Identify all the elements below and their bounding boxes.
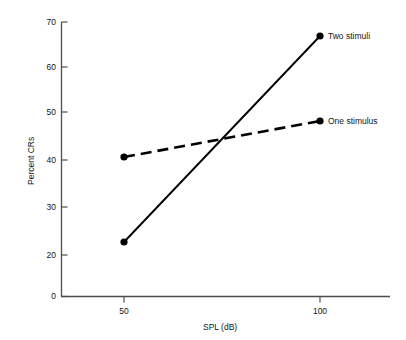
- chart-figure: 70 60 50 40 30 20 0 50 100 Percent CRs S…: [0, 0, 406, 340]
- series-label-one-stimulus: One stimulus: [328, 117, 378, 126]
- data-point-two-stimuli-50: [120, 238, 127, 245]
- x-axis-ticks: [124, 297, 320, 303]
- x-tick-label-50: 50: [109, 307, 139, 316]
- data-point-two-stimuli-100: [316, 32, 323, 39]
- data-point-one-stimulus-50: [120, 153, 127, 160]
- y-tick-label-50: 50: [32, 108, 56, 117]
- plot-area: [0, 0, 406, 340]
- y-tick-label-60: 60: [32, 63, 56, 72]
- axis-lines: [61, 22, 390, 297]
- series-label-two-stimuli: Two stimuli: [328, 32, 370, 41]
- x-axis-title: SPL (dB): [203, 323, 237, 332]
- y-axis-ticks: [62, 22, 68, 297]
- y-tick-label-0: 0: [32, 292, 56, 301]
- y-tick-label-70: 70: [32, 18, 56, 27]
- y-axis-title: Percent CRs: [27, 137, 36, 185]
- series-two-stimuli: [120, 32, 323, 245]
- x-tick-label-100: 100: [305, 307, 335, 316]
- series-two-stimuli-line: [124, 36, 320, 242]
- data-point-one-stimulus-100: [316, 117, 323, 124]
- y-tick-label-20: 20: [32, 251, 56, 260]
- y-tick-label-30: 30: [32, 203, 56, 212]
